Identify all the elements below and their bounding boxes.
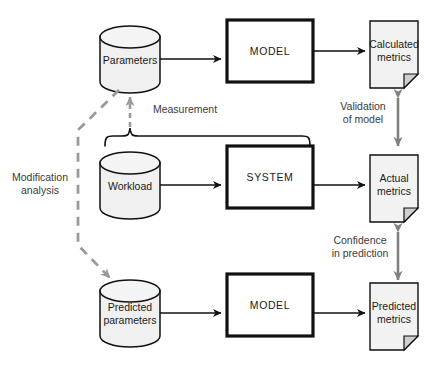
node-model-top-label: MODEL (250, 45, 290, 57)
node-predicted-parameters-label-line2: parameters (103, 314, 156, 326)
node-parameters: Parameters (100, 26, 160, 93)
node-predicted-parameters: Predicted parameters (100, 280, 160, 347)
node-calculated-metrics: Calculated metrics (369, 21, 419, 88)
label-validation-line2: of model (343, 113, 383, 125)
node-predicted-metrics-label-line2: metrics (377, 313, 411, 325)
node-workload-label: Workload (108, 180, 152, 192)
cylinder-top (100, 280, 160, 302)
label-measurement: Measurement (153, 103, 217, 115)
model-validation-diagram: Parameters MODEL Calculated metrics Meas… (0, 0, 448, 365)
node-predicted-metrics: Predicted metrics (370, 283, 418, 350)
label-modification-line1: Modification (12, 171, 68, 183)
node-model-top: MODEL (227, 20, 313, 82)
node-model-bottom: MODEL (227, 274, 313, 336)
node-calculated-metrics-label-line1: Calculated (369, 38, 419, 50)
node-calculated-metrics-label-line2: metrics (377, 51, 411, 63)
label-validation-line1: Validation (340, 100, 385, 112)
node-workload: Workload (100, 152, 160, 219)
label-confidence-line2: in prediction (332, 247, 389, 259)
label-confidence-line1: Confidence (333, 234, 386, 246)
node-predicted-metrics-label-line1: Predicted (372, 300, 417, 312)
node-actual-metrics-label-line1: Actual (379, 172, 408, 184)
node-predicted-parameters-label-line1: Predicted (108, 301, 153, 313)
node-parameters-label: Parameters (103, 54, 157, 66)
cylinder-top (100, 152, 160, 174)
node-system: SYSTEM (227, 146, 313, 208)
cylinder-top (100, 26, 160, 48)
node-actual-metrics: Actual metrics (370, 155, 418, 222)
node-model-bottom-label: MODEL (250, 299, 290, 311)
label-modification-line2: analysis (21, 184, 59, 196)
node-system-label: SYSTEM (247, 171, 294, 183)
node-actual-metrics-label-line2: metrics (377, 185, 411, 197)
